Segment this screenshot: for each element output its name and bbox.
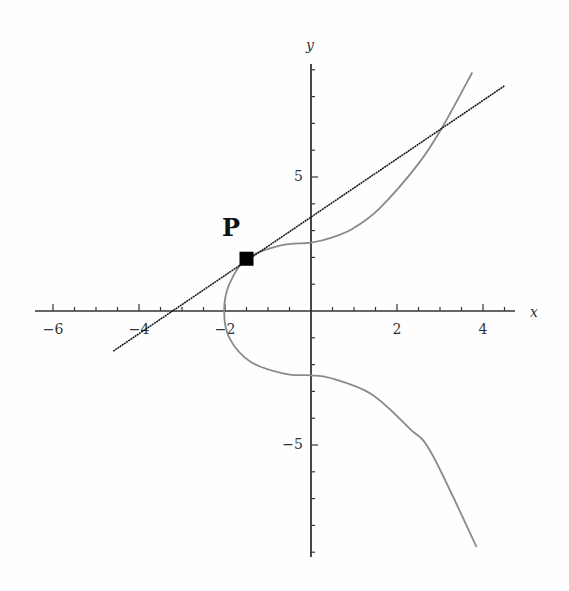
x-axis-label: x — [530, 304, 538, 320]
point-p-marker — [240, 252, 254, 266]
y-tick-label: 5 — [294, 168, 303, 184]
y-tick-label: −5 — [282, 436, 303, 452]
x-tick-label: 4 — [479, 321, 488, 337]
chart-canvas: −6 −4 −2 2 4 5 −5 x y P — [0, 0, 569, 591]
point-p-label: P — [222, 213, 240, 242]
plot-svg: −6 −4 −2 2 4 5 −5 x y P — [0, 0, 569, 591]
x-tick-label: −6 — [43, 321, 64, 337]
y-axis-label: y — [305, 37, 315, 53]
x-tick-label: 2 — [393, 321, 402, 337]
elliptic-curve — [224, 72, 476, 546]
x-axis-ticks — [53, 304, 505, 311]
